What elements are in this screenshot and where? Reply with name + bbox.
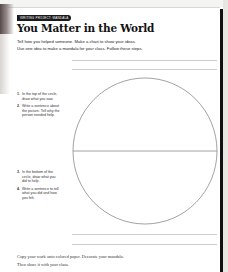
step-text: Write a sentence about the picture. Tell…: [22, 104, 61, 118]
step-item: 3. In the bottom of the circle, draw wha…: [17, 170, 61, 184]
instructions-line-2: Use one idea to make a mandala for your …: [17, 46, 217, 53]
footer-line-2: Then share it with your class.: [17, 261, 217, 269]
steps-bottom: 3. In the bottom of the circle, draw wha…: [17, 170, 61, 204]
step-item: 4. Write a sentence to tell what you did…: [17, 187, 61, 201]
step-text: In the bottom of the circle, draw what y…: [22, 170, 61, 184]
footer-instructions: Copy your work onto colored paper. Decor…: [17, 253, 217, 268]
steps-top: 1. In the top of the circle, draw what y…: [17, 92, 61, 121]
step-item: 1. In the top of the circle, draw what y…: [17, 92, 61, 101]
writing-line-top-2[interactable]: [72, 69, 217, 70]
background-right: [223, 0, 228, 272]
footer-line-1: Copy your work onto colored paper. Decor…: [17, 253, 217, 261]
page-title: You Matter in the World: [17, 22, 154, 34]
mandala-drawing-area[interactable]: [71, 76, 219, 226]
mandala-circle[interactable]: [71, 76, 219, 230]
step-text: Write a sentence to tell what you did an…: [22, 187, 61, 201]
step-text: In the top of the circle, draw what you …: [22, 92, 61, 101]
writing-line-bottom-1[interactable]: [72, 234, 217, 235]
background-strip: [0, 0, 228, 7]
step-item: 2. Write a sentence about the picture. T…: [17, 104, 61, 118]
page-shadow: [0, 4, 14, 34]
page-shadow-lower: [0, 34, 10, 94]
writing-line-top-1[interactable]: [72, 60, 217, 61]
section-tag: WRITING PROJECT: MANDALA: [17, 15, 71, 21]
writing-line-bottom-2[interactable]: [72, 244, 217, 245]
instructions: Tell how you helped someone. Make a char…: [17, 39, 217, 52]
